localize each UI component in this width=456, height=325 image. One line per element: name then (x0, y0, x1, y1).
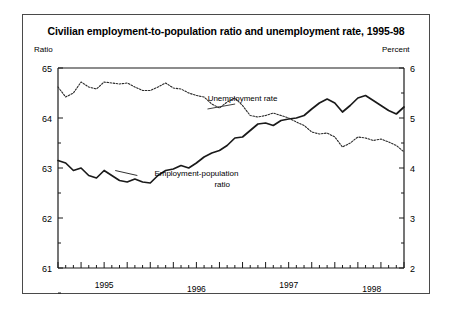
employment-leader-line (115, 171, 137, 176)
chart-figure: Civilian employment-to-population ratio … (0, 0, 456, 325)
series-annotation: Unemployment rate (208, 94, 278, 103)
x-axis-year-label: 1995 (95, 280, 114, 290)
series-annotation: Employment-population (154, 169, 238, 178)
right-tick-label: 4 (410, 164, 415, 174)
series-annotation: ratio (214, 180, 230, 189)
plot-canvas: 6162636465234561995199619971998Unemploym… (0, 0, 456, 325)
right-tick-label: 6 (410, 64, 415, 74)
right-tick-label: 2 (410, 264, 415, 274)
x-axis-year-label: 1997 (279, 280, 298, 290)
left-tick-label: 64 (42, 114, 52, 124)
left-tick-label: 63 (42, 164, 52, 174)
right-tick-label: 5 (410, 114, 415, 124)
x-axis-year-label: 1998 (362, 284, 381, 294)
left-tick-label: 62 (42, 214, 52, 224)
x-axis-year-label: 1996 (187, 284, 206, 294)
unemployment-leader-line (207, 104, 235, 109)
right-tick-label: 3 (410, 214, 415, 224)
left-tick-label: 61 (42, 264, 52, 274)
left-tick-label: 65 (42, 64, 52, 74)
